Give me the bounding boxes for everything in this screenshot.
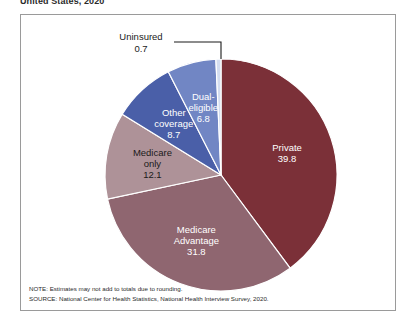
footnote-note: NOTE: Estimates may not add to totals du… — [29, 284, 269, 294]
figure-title: United States, 2020 — [20, 0, 104, 6]
slice-label-medicare-only-line1: Medicare — [133, 147, 172, 158]
chart-frame: Private39.8MedicareAdvantage31.8Medicare… — [20, 14, 396, 311]
slice-label-medicare-only-line2: only — [144, 158, 162, 169]
footnotes: NOTE: Estimates may not add to totals du… — [29, 284, 269, 304]
uninsured-leader-line — [174, 42, 221, 59]
pie-chart: Private39.8MedicareAdvantage31.8Medicare… — [21, 15, 397, 312]
slice-label-dual-eligible-line2: eligible — [188, 102, 218, 113]
slice-label-other-coverage-line3: 8.7 — [167, 129, 180, 140]
slice-label-dual-eligible-line1: Dual- — [192, 91, 215, 102]
pie-slices-group — [105, 59, 337, 291]
slice-label-private-line1: Private — [272, 142, 302, 153]
slice-label-medicare-advantage-line2: Advantage — [174, 235, 219, 246]
footnote-source: SOURCE: National Center for Health Stati… — [29, 294, 269, 304]
slice-label-private-line2: 39.8 — [278, 153, 297, 164]
slice-label-medicare-advantage-line1: Medicare — [177, 224, 216, 235]
pie-svg: Private39.8MedicareAdvantage31.8Medicare… — [21, 15, 397, 312]
slice-label-dual-eligible-line3: 6.8 — [197, 113, 210, 124]
slice-label-uninsured-name: Uninsured — [119, 31, 162, 42]
slice-label-other-coverage-line1: Other — [162, 107, 186, 118]
slice-label-medicare-only-line3: 12.1 — [143, 169, 162, 180]
slice-label-other-coverage-line2: coverage — [154, 118, 193, 129]
slice-label-uninsured-value: 0.7 — [134, 43, 147, 54]
slice-label-medicare-advantage-line3: 31.8 — [187, 246, 206, 257]
